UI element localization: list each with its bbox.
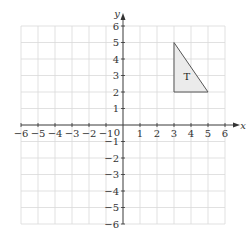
shape-label: T (183, 71, 190, 82)
x-axis-label: x (240, 120, 246, 131)
y-axis-label: y (113, 8, 120, 19)
x-tick-label: 2 (154, 128, 160, 139)
axes (21, 13, 240, 224)
coordinate-plane: T −6−5−4−3−2−1123456−6−5−4−3−2−11234560x… (0, 0, 248, 238)
x-tick-label: 5 (205, 128, 211, 139)
x-tick-label: −3 (65, 128, 80, 139)
y-tick-label: 4 (113, 54, 119, 65)
x-tick-label: 4 (188, 128, 194, 139)
x-tick-label: 1 (137, 128, 143, 139)
tick-labels: −6−5−4−3−2−1123456−6−5−4−3−2−11234560xy (14, 8, 247, 230)
y-tick-label: 5 (113, 37, 119, 48)
y-tick-label: −5 (104, 202, 119, 213)
origin-label: 0 (114, 127, 120, 138)
x-tick-label: 6 (222, 128, 228, 139)
x-tick-label: −4 (48, 128, 63, 139)
x-tick-label: 3 (171, 128, 177, 139)
x-tick-label: −2 (82, 128, 97, 139)
y-tick-label: −6 (104, 219, 119, 230)
x-axis-arrow-icon (233, 123, 240, 128)
y-axis-arrow-icon (121, 13, 126, 20)
y-tick-label: 1 (113, 103, 119, 114)
y-tick-label: 2 (113, 87, 119, 98)
y-tick-label: −4 (104, 186, 119, 197)
x-tick-label: −5 (31, 128, 46, 139)
y-tick-label: 3 (113, 70, 119, 81)
x-tick-label: −6 (14, 128, 29, 139)
y-tick-label: −2 (104, 153, 119, 164)
y-tick-label: −3 (104, 169, 119, 180)
y-tick-label: 6 (113, 21, 119, 32)
